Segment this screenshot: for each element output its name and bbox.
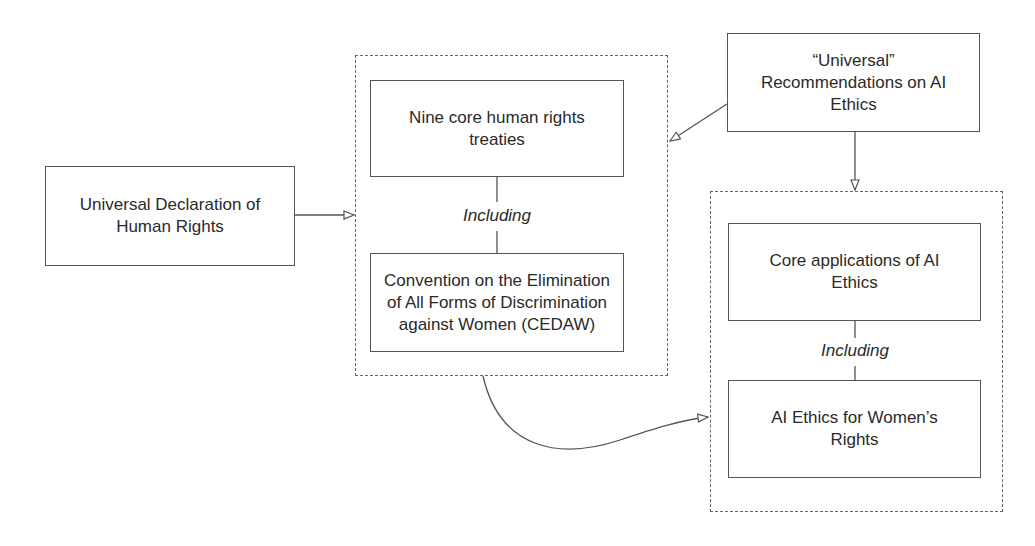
women-ai-box: AI Ethics for Women’s Rights [728,380,981,478]
treaties-box: Nine core human rights treaties [370,80,624,177]
cedaw-text: Convention on the Elimination of All For… [381,270,613,336]
arrow-ai-recs-to-treaties-group [670,104,727,141]
ai-recs-box: “Universal” Recommendations on AI Ethics [727,33,980,132]
udhr-text: Universal Declaration of Human Rights [56,194,284,238]
including-label-right: Including [795,341,915,361]
including-label-left: Including [437,206,557,226]
core-apps-box: Core applications of AI Ethics [728,223,981,321]
core-apps-text: Core applications of AI Ethics [739,250,970,294]
women-ai-text: AI Ethics for Women’s Rights [739,407,970,451]
treaties-text: Nine core human rights treaties [381,107,613,151]
cedaw-box: Convention on the Elimination of All For… [370,253,624,352]
arrow-cedaw-to-women-ai [483,376,708,449]
ai-recs-text: “Universal” Recommendations on AI Ethics [738,50,969,116]
udhr-box: Universal Declaration of Human Rights [45,166,295,266]
